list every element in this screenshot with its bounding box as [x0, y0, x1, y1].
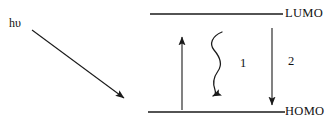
lumo-level-label: LUMO [285, 7, 323, 20]
photon-arrow [32, 30, 124, 98]
photon-energy-label: hυ [9, 17, 21, 29]
diagram-canvas [0, 0, 329, 130]
homo-level-label: HOMO [285, 105, 324, 118]
process-2-label: 2 [288, 55, 294, 68]
energy-level-diagram: LUMO HOMO hυ 1 2 [0, 0, 329, 130]
process-1-label: 1 [240, 57, 246, 70]
internal-conversion-wavy-arrow [212, 32, 222, 96]
